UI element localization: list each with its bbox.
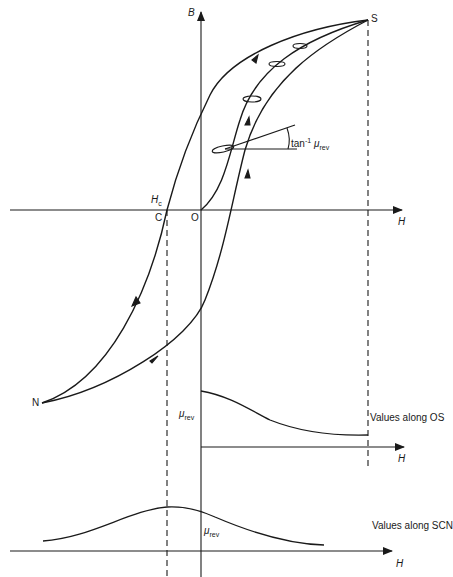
tan-mu-rev-annotation: tan-1 μrev: [291, 139, 329, 149]
os-caption: Values along OS: [370, 413, 444, 423]
mu-rev-along-scn-curve: [43, 507, 324, 545]
arrow-ascending-mid: [245, 170, 250, 178]
tan-sup: -1: [305, 137, 311, 144]
scn-mu-rev-label: μrev: [204, 526, 219, 536]
minor-loop: [243, 96, 261, 102]
hc-label: Hc: [151, 195, 162, 205]
arrow-descending-top: [252, 55, 258, 63]
point-s-label: S: [371, 14, 378, 24]
initial-magnetization-curve: [201, 20, 368, 210]
os-mu-rev-label: μrev: [179, 409, 194, 419]
descending-branch: [42, 20, 368, 403]
ascending-branch: [42, 20, 368, 403]
point-c-label: C: [155, 213, 162, 223]
h-axis-label-scn: H: [396, 559, 403, 569]
angle-arc: [287, 128, 289, 149]
mu-rev-along-os-curve: [201, 391, 368, 435]
scn-caption: Values along SCN: [372, 521, 453, 531]
h-axis-label-os: H: [398, 454, 405, 464]
h-axis-label-main: H: [398, 217, 405, 227]
hysteresis-diagram: [0, 0, 453, 577]
os-mu-sub: rev: [184, 414, 194, 421]
b-axis-label: B: [188, 8, 195, 18]
mu-sub: rev: [319, 144, 329, 151]
point-o-label: O: [191, 213, 199, 223]
tan-text: tan: [291, 138, 305, 149]
hc-sub: c: [158, 200, 162, 207]
point-n-label: N: [32, 398, 39, 408]
arrow-initial-curve: [245, 117, 250, 125]
scn-mu-sub: rev: [209, 531, 219, 538]
